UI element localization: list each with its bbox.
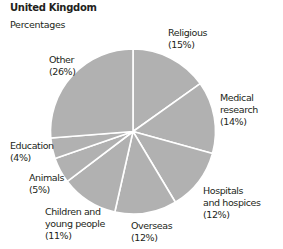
slice-label-education: Education (4%) bbox=[10, 140, 54, 164]
label-line: Animals bbox=[29, 172, 64, 184]
slice-label-children: Children and young people (11%) bbox=[45, 206, 105, 242]
label-line: (12%) bbox=[131, 232, 172, 244]
label-line: (4%) bbox=[10, 152, 54, 164]
label-line: research bbox=[220, 104, 258, 116]
label-line: Hospitals bbox=[203, 185, 261, 197]
label-line: young people bbox=[45, 218, 105, 230]
label-line: Medical bbox=[220, 92, 258, 104]
label-line: Overseas bbox=[131, 220, 172, 232]
label-line: Religious bbox=[168, 27, 207, 39]
label-line: (11%) bbox=[45, 230, 105, 242]
label-line: and hospices bbox=[203, 197, 261, 209]
slice-label-hospitals: Hospitals and hospices (12%) bbox=[203, 185, 261, 221]
slice-label-religious: Religious (15%) bbox=[168, 27, 207, 51]
label-line: Children and bbox=[45, 206, 105, 218]
label-line: Education bbox=[10, 140, 54, 152]
label-line: (12%) bbox=[203, 209, 261, 221]
label-line: Other bbox=[49, 54, 76, 66]
label-line: (5%) bbox=[29, 184, 64, 196]
label-line: (26%) bbox=[49, 66, 76, 78]
label-line: (14%) bbox=[220, 116, 258, 128]
slice-label-other: Other (26%) bbox=[49, 54, 76, 78]
slice-label-medical-research: Medical research (14%) bbox=[220, 92, 258, 128]
label-line: (15%) bbox=[168, 39, 207, 51]
slice-label-animals: Animals (5%) bbox=[29, 172, 64, 196]
slice-label-overseas: Overseas (12%) bbox=[131, 220, 172, 244]
